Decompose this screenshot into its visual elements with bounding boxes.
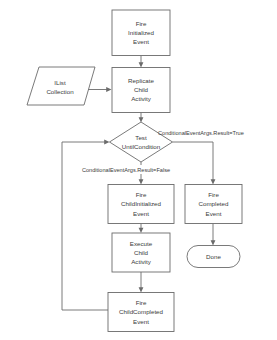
edge-loop-back-to-test: [62, 140, 112, 310]
node-execute-child-line2: Child: [134, 249, 149, 256]
edge-initialized-to-replicate: [139, 56, 144, 68]
edge-child-initialized-to-execute: [139, 224, 144, 234]
node-test-until-condition[interactable]: Test UntilCondition: [110, 122, 173, 162]
flowchart-canvas: Fire Initialized Event IList Collection …: [0, 0, 277, 340]
edge-test-true-to-fire-completed: [173, 142, 216, 185]
node-test-until-condition-line1: Test: [135, 134, 147, 141]
node-fire-child-completed-line2: ChildCompleted: [119, 308, 164, 315]
node-execute-child-line3: Activity: [131, 258, 152, 265]
edge-test-false-to-child-initialized: [139, 162, 144, 185]
node-fire-initialized-line1: Fire: [136, 20, 147, 27]
node-fire-child-completed-line3: Event: [133, 318, 149, 325]
node-replicate-child-activity[interactable]: Replicate Child Activity: [112, 68, 170, 113]
node-fire-child-completed-event[interactable]: Fire ChildCompleted Event: [108, 293, 174, 332]
node-fire-child-initialized-line3: Event: [133, 210, 149, 217]
node-execute-child-line1: Execute: [130, 240, 153, 247]
node-fire-completed-event[interactable]: Fire Completed Event: [185, 185, 242, 224]
node-done-label: Done: [206, 253, 221, 260]
edge-replicate-to-test: [139, 113, 144, 123]
edge-label-condition-true: ConditionalEventArgs.Result=True: [158, 130, 244, 136]
node-replicate-child-line1: Replicate: [128, 77, 154, 84]
node-fire-child-completed-line1: Fire: [136, 299, 147, 306]
node-fire-child-initialized-line2: ChildInitialized: [121, 200, 161, 207]
node-fire-completed-line3: Event: [206, 210, 222, 217]
edge-label-condition-false: ConditionalEventArgs.Result=False: [82, 167, 170, 173]
node-ilist-collection-line1: IList: [54, 79, 66, 86]
flowchart-svg: Fire Initialized Event IList Collection …: [0, 0, 277, 340]
node-fire-initialized-event[interactable]: Fire Initialized Event: [112, 10, 170, 56]
node-replicate-child-line3: Activity: [131, 95, 152, 102]
node-fire-child-initialized-event[interactable]: Fire ChildInitialized Event: [108, 185, 174, 224]
node-done-terminator[interactable]: Done: [187, 246, 240, 268]
node-fire-completed-line1: Fire: [208, 191, 219, 198]
node-ilist-collection[interactable]: IList Collection: [27, 67, 95, 105]
node-ilist-collection-line2: Collection: [46, 88, 74, 95]
node-execute-child-activity[interactable]: Execute Child Activity: [112, 233, 170, 272]
node-fire-completed-line2: Completed: [199, 200, 229, 207]
node-fire-initialized-line3: Event: [133, 38, 149, 45]
edge-execute-to-child-completed: [139, 272, 144, 293]
node-fire-child-initialized-line1: Fire: [136, 191, 147, 198]
node-fire-initialized-line2: Initialized: [128, 29, 154, 36]
edge-fire-completed-to-done: [211, 224, 216, 246]
node-test-until-condition-line2: UntilCondition: [122, 143, 161, 150]
node-replicate-child-line2: Child: [134, 86, 149, 93]
